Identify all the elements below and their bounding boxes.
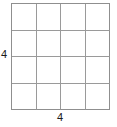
- grid-cell: [86, 57, 111, 84]
- side-length-label-bottom: 4: [57, 112, 63, 123]
- grid-cell: [37, 4, 62, 31]
- grid-cell: [61, 31, 86, 58]
- grid-cell: [37, 84, 62, 111]
- grid-cell: [12, 31, 37, 58]
- grid-cell: [12, 84, 37, 111]
- square-grid: [11, 3, 110, 110]
- grid-cell: [61, 4, 86, 31]
- grid-cell: [86, 4, 111, 31]
- side-length-label-left: 4: [1, 49, 7, 60]
- grid-cell: [12, 57, 37, 84]
- grid-figure: 4 4: [0, 0, 117, 127]
- grid-cell: [86, 31, 111, 58]
- grid-cell: [86, 84, 111, 111]
- grid-cell: [12, 4, 37, 31]
- grid-cell: [37, 31, 62, 58]
- grid-cell: [37, 57, 62, 84]
- grid-cell: [61, 57, 86, 84]
- grid-cell: [61, 84, 86, 111]
